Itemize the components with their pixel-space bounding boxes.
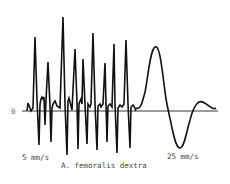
doppler-waveform-figure: 0 5 mm/s 25 mm/s A. femoralis dextra [0, 0, 230, 184]
right-speed-label: 25 mm/s [167, 152, 199, 161]
waveform-25mms [136, 47, 216, 148]
waveform-5mms [27, 17, 136, 155]
left-speed-label: 5 mm/s [22, 153, 49, 162]
zero-label: 0 [11, 107, 16, 116]
figure-caption: A. femoralis dextra [61, 161, 147, 170]
